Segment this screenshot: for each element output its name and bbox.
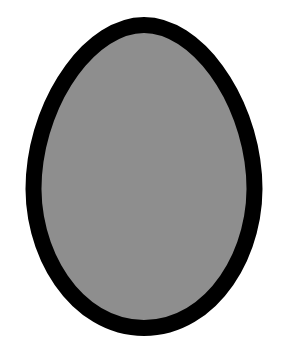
- image-canvas: Egg silhouette A single large egg-shaped…: [0, 0, 289, 357]
- egg-shape-svg: [0, 0, 289, 357]
- egg-shape-path: [33, 25, 254, 328]
